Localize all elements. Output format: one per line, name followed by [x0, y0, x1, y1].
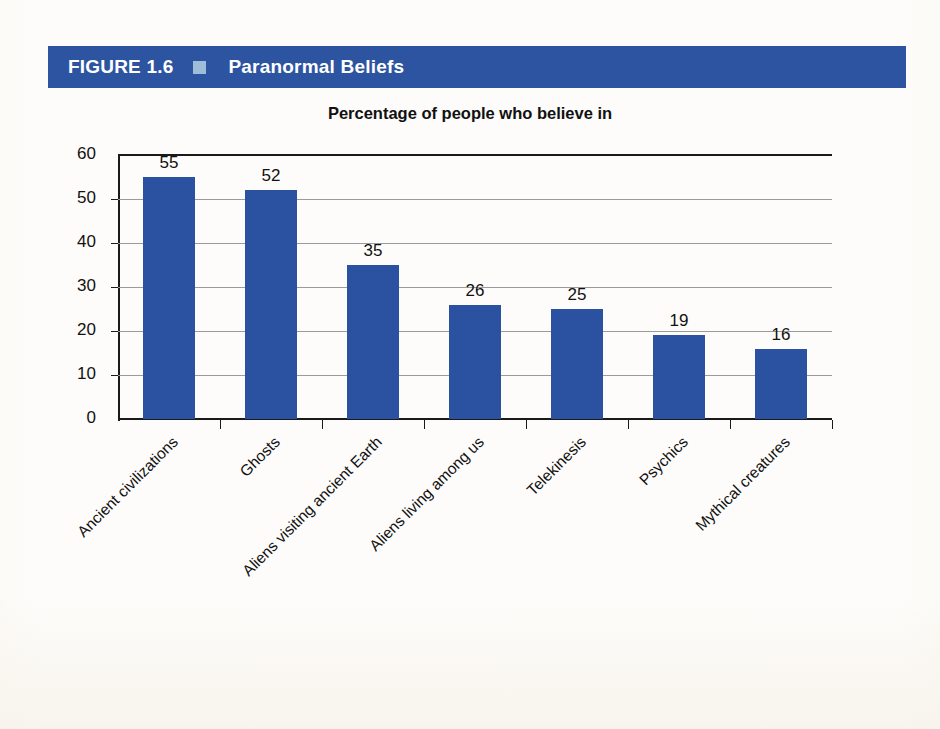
y-axis-tick-mark — [111, 243, 118, 244]
bar — [653, 335, 705, 419]
bar-value-label: 26 — [445, 281, 505, 301]
y-axis-tick-label: 0 — [0, 408, 96, 428]
figure-banner: FIGURE 1.6 Paranormal Beliefs — [48, 46, 906, 88]
bar — [449, 305, 501, 419]
x-axis-tick-mark — [220, 420, 221, 429]
bar-value-label: 55 — [139, 153, 199, 173]
y-axis-tick-label: 60 — [0, 144, 96, 164]
chart-title: Percentage of people who believe in — [0, 104, 940, 123]
x-axis-tick-mark — [424, 420, 425, 429]
figure-number-label: FIGURE 1.6 — [68, 56, 173, 78]
x-axis-tick-mark — [628, 420, 629, 429]
x-axis-tick-mark — [832, 420, 833, 429]
plot-area: 55523526251916 — [118, 155, 832, 419]
y-axis-tick-label: 10 — [0, 364, 96, 384]
bar-value-label: 25 — [547, 285, 607, 305]
y-axis-tick-label: 40 — [0, 232, 96, 252]
bar — [245, 190, 297, 419]
y-axis-tick-mark — [111, 375, 118, 376]
gridline-50 — [118, 199, 832, 200]
y-axis-tick-mark — [111, 331, 118, 332]
x-axis-tick-mark — [322, 420, 323, 429]
y-axis-tick-label: 20 — [0, 320, 96, 340]
bar — [347, 265, 399, 419]
y-axis-tick-mark — [111, 199, 118, 200]
square-bullet-icon — [193, 61, 206, 74]
gridline-60 — [118, 154, 832, 156]
bar-value-label: 52 — [241, 166, 301, 186]
gridline-40 — [118, 243, 832, 244]
y-axis-tick-label: 50 — [0, 188, 96, 208]
figure-title: Paranormal Beliefs — [228, 56, 404, 78]
bar-value-label: 35 — [343, 241, 403, 261]
bar-value-label: 19 — [649, 311, 709, 331]
x-axis-tick-mark — [730, 420, 731, 429]
bar — [143, 177, 195, 419]
y-axis-tick-label: 30 — [0, 276, 96, 296]
y-axis-tick-mark — [111, 287, 118, 288]
bar — [551, 309, 603, 419]
x-axis-tick-mark — [526, 420, 527, 429]
bar — [755, 349, 807, 419]
bar-value-label: 16 — [751, 325, 811, 345]
